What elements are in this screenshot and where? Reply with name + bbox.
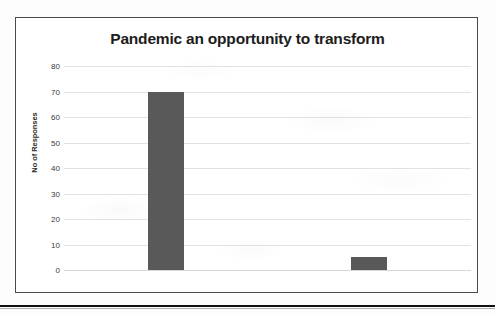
chart-title: Pandemic an opportunity to transform: [16, 30, 479, 48]
y-axis-tick-label: 40: [26, 164, 60, 173]
y-axis-tick-label: 20: [26, 215, 60, 224]
bar-no[interactable]: [351, 257, 387, 270]
bar-yes[interactable]: [148, 92, 184, 271]
gridline: [64, 270, 471, 271]
gridline: [64, 92, 471, 93]
gridline: [64, 66, 471, 67]
y-axis-tick-label: 30: [26, 189, 60, 198]
y-axis-tick-labels: 80706050403020100: [22, 66, 60, 270]
gridline: [64, 168, 471, 169]
scanned-chart-page: Pandemic an opportunity to transform No …: [0, 0, 495, 317]
gridline: [64, 245, 471, 246]
gridline: [64, 117, 471, 118]
y-axis-tick-label: 80: [26, 62, 60, 71]
y-axis-tick-label: 70: [26, 87, 60, 96]
gridline: [64, 143, 471, 144]
y-axis-tick-label: 60: [26, 113, 60, 122]
y-axis-tick-label: 50: [26, 138, 60, 147]
y-axis-tick-label: 10: [26, 240, 60, 249]
gridline: [64, 219, 471, 220]
y-axis-tick-label: 0: [26, 266, 60, 275]
gridline: [64, 194, 471, 195]
chart-frame: Pandemic an opportunity to transform No …: [15, 17, 478, 293]
bottom-rule-shadow: [0, 308, 495, 309]
plot-area: YesNO: [64, 66, 471, 270]
